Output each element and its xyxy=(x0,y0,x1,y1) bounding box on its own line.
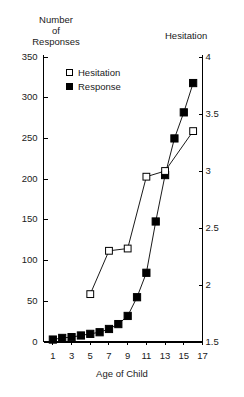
legend-label-hesitation: Hesitation xyxy=(78,67,120,78)
chart-legend: Hesitation Response xyxy=(66,66,121,94)
y-axis-left-title-line-3: Responses xyxy=(17,36,95,47)
x-tick-label: 11 xyxy=(138,350,154,361)
data-point-marker xyxy=(77,332,84,339)
chart-figure: Number of Responses Hesitation Age of Ch… xyxy=(0,0,244,397)
x-tick-label: 15 xyxy=(176,350,192,361)
x-tick-label: 7 xyxy=(101,350,117,361)
data-point-marker xyxy=(162,168,169,175)
legend-item-hesitation: Hesitation xyxy=(66,66,121,79)
data-point-marker xyxy=(96,329,103,336)
data-point-marker xyxy=(105,325,112,332)
data-point-marker xyxy=(49,336,56,343)
x-axis-title: Age of Child xyxy=(0,368,244,379)
data-point-marker xyxy=(152,218,159,225)
y-tick-label-left: 300 xyxy=(10,91,38,102)
y-tick-label-left: 200 xyxy=(10,173,38,184)
data-point-marker xyxy=(180,109,187,116)
series-line xyxy=(90,131,193,294)
data-point-marker xyxy=(190,128,197,135)
x-tick-label: 13 xyxy=(157,350,173,361)
data-point-marker xyxy=(124,312,131,319)
y-tick-label-right: 1.5 xyxy=(206,336,232,347)
data-point-marker xyxy=(68,334,75,341)
data-point-marker xyxy=(87,330,94,337)
y-tick-label-right: 2 xyxy=(206,279,232,290)
series-hesitation xyxy=(87,128,197,298)
y-tick-label-left: 250 xyxy=(10,132,38,143)
x-tick-label: 5 xyxy=(82,350,98,361)
legend-label-response: Response xyxy=(78,81,121,92)
data-point-marker xyxy=(106,247,113,254)
data-point-marker xyxy=(87,291,94,298)
x-tick-label: 17 xyxy=(195,350,211,361)
y-axis-left-title-line-1: Number xyxy=(17,14,95,25)
y-tick-label-left: 350 xyxy=(10,51,38,62)
y-tick-label-left: 50 xyxy=(10,295,38,306)
x-tick-label: 9 xyxy=(120,350,136,361)
y-tick-label-left: 100 xyxy=(10,254,38,265)
legend-item-response: Response xyxy=(66,80,121,93)
y-tick-label-left: 150 xyxy=(10,213,38,224)
data-point-marker xyxy=(143,269,150,276)
legend-marker-filled-square-icon xyxy=(66,83,73,90)
axes-group xyxy=(44,55,203,345)
y-tick-label-right: 3 xyxy=(206,165,232,176)
x-tick-label: 3 xyxy=(64,350,80,361)
data-point-marker xyxy=(59,334,66,341)
y-axis-left-title-line-2: of xyxy=(17,25,95,36)
y-axis-left-title: Number of Responses xyxy=(17,14,95,47)
series-line xyxy=(53,83,193,340)
data-point-marker xyxy=(171,135,178,142)
data-point-marker xyxy=(124,245,131,252)
y-tick-label-right: 4 xyxy=(206,51,232,62)
y-axis-right-title: Hesitation xyxy=(165,30,207,41)
y-tick-label-right: 2.5 xyxy=(206,222,232,233)
data-point-marker xyxy=(190,79,197,86)
data-point-marker xyxy=(115,320,122,327)
series-group xyxy=(49,79,196,343)
y-tick-label-right: 3.5 xyxy=(206,108,232,119)
data-point-marker xyxy=(133,294,140,301)
legend-marker-open-square-icon xyxy=(66,69,73,76)
data-point-marker xyxy=(143,173,150,180)
x-tick-label: 1 xyxy=(45,350,61,361)
series-response xyxy=(49,79,196,343)
y-tick-label-left: 0 xyxy=(10,336,38,347)
